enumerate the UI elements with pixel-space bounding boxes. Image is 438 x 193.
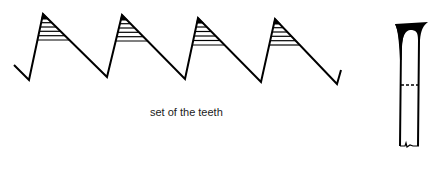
tooth-set-hatching: [38, 14, 300, 45]
saw-teeth-set-diagram: [0, 0, 438, 193]
diagram-caption: set of the teeth: [150, 106, 223, 118]
teeth-outline: [14, 14, 341, 84]
blade-broken-edge: [400, 143, 419, 147]
blade-side-view: [395, 22, 428, 147]
saw-teeth-profile: [14, 14, 341, 84]
blade-body: [403, 32, 417, 143]
